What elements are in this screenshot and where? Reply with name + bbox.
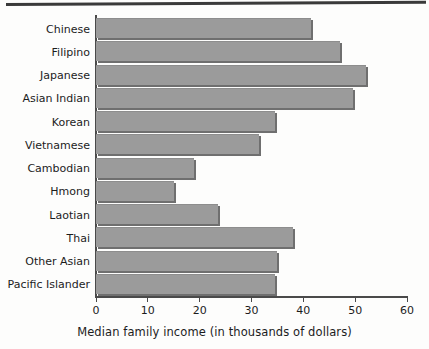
category-label-thai: Thai — [67, 231, 91, 244]
x-tick-50 — [355, 296, 356, 302]
bar-cambodian — [96, 158, 194, 178]
x-axis-title: Median family income (in thousands of do… — [0, 325, 429, 339]
bar-hmong — [96, 181, 174, 201]
bar-japanese — [96, 65, 366, 85]
x-tick-30 — [251, 296, 252, 302]
x-tick-0 — [96, 296, 97, 302]
x-tick-label-40: 40 — [296, 304, 310, 317]
category-label-vietnamese: Vietnamese — [25, 138, 90, 151]
x-tick-10 — [147, 296, 148, 302]
bar-other-asian — [96, 251, 277, 271]
x-tick-label-50: 50 — [348, 304, 362, 317]
category-label-laotian: Laotian — [49, 208, 90, 221]
category-label-hmong: Hmong — [50, 185, 90, 198]
bar-asian-indian — [96, 88, 353, 108]
x-tick-20 — [199, 296, 200, 302]
category-label-asian-indian: Asian Indian — [23, 92, 91, 105]
category-label-filipino: Filipino — [52, 45, 90, 58]
x-tick-label-0: 0 — [93, 304, 100, 317]
figure-canvas: 0102030405060 ChineseFilipinoJapaneseAsi… — [0, 0, 429, 349]
category-label-japanese: Japanese — [40, 69, 90, 82]
x-tick-40 — [303, 296, 304, 302]
bar-vietnamese — [96, 134, 259, 154]
category-label-pacific-islander: Pacific Islander — [8, 278, 90, 291]
bar-laotian — [96, 204, 218, 224]
bar-chart: 0102030405060 ChineseFilipinoJapaneseAsi… — [0, 0, 429, 349]
bar-filipino — [96, 41, 340, 61]
bar-pacific-islander — [96, 274, 275, 294]
x-tick-label-10: 10 — [141, 304, 155, 317]
category-label-chinese: Chinese — [46, 22, 90, 35]
x-tick-label-20: 20 — [193, 304, 207, 317]
x-tick-60 — [407, 296, 408, 302]
bar-chinese — [96, 18, 311, 38]
category-label-cambodian: Cambodian — [27, 162, 90, 175]
x-tick-label-30: 30 — [245, 304, 259, 317]
category-label-korean: Korean — [52, 115, 90, 128]
bar-thai — [96, 227, 293, 247]
bar-korean — [96, 111, 275, 131]
category-label-other-asian: Other Asian — [25, 255, 90, 268]
x-tick-label-60: 60 — [400, 304, 414, 317]
